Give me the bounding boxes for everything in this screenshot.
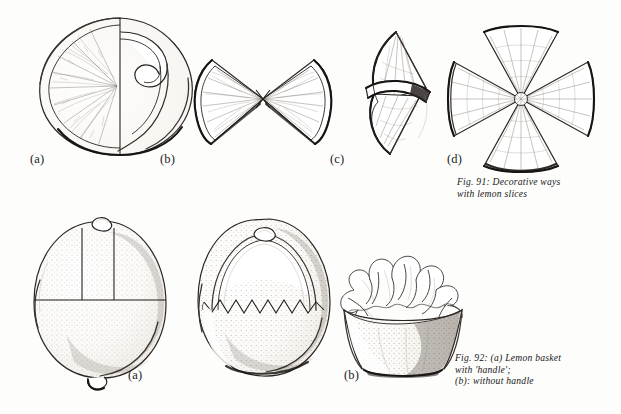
fig-92a-drawing bbox=[26, 214, 186, 392]
figure-91d-cross-of-wedges bbox=[440, 18, 602, 180]
figure-92a-lemon-with-cut-lines bbox=[26, 214, 186, 392]
salad-garnish bbox=[341, 256, 463, 326]
caption-figure-92-line-1: Fig. 92: (a) Lemon basket bbox=[455, 352, 561, 364]
label-figure-91b: (b) bbox=[160, 152, 175, 167]
illustration-plate: (a) bbox=[0, 0, 621, 414]
label-figure-91c: (c) bbox=[330, 152, 344, 167]
caption-figure-92: Fig. 92: (a) Lemon basket with 'handle';… bbox=[455, 352, 561, 387]
fig-91b-drawing bbox=[190, 44, 336, 154]
fig-91d-drawing bbox=[440, 18, 602, 180]
figure-91b-bow-tie-wedges bbox=[190, 44, 336, 154]
label-figure-92b: (b) bbox=[344, 368, 359, 383]
figure-91a-lemon-slice-curled-peel bbox=[28, 12, 203, 162]
figure-91c-interlocked-wedges bbox=[338, 22, 448, 164]
label-figure-91d: (d) bbox=[447, 152, 462, 167]
fig-91a-drawing bbox=[28, 12, 203, 162]
fig-91c-drawing bbox=[338, 22, 448, 164]
caption-figure-91-line-2: with lemon slices bbox=[457, 188, 561, 200]
label-figure-92a: (a) bbox=[128, 368, 142, 383]
caption-figure-92-line-3: (b): without handle bbox=[455, 375, 561, 387]
label-figure-91a: (a) bbox=[30, 152, 44, 167]
caption-figure-91-line-1: Fig. 91: Decorative ways bbox=[457, 176, 561, 188]
caption-figure-92-line-2: with 'handle'; bbox=[455, 364, 561, 376]
caption-figure-91: Fig. 91: Decorative ways with lemon slic… bbox=[457, 176, 561, 199]
